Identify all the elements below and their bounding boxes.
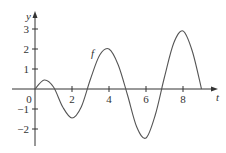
y-tick-label: 3 [24,23,30,35]
x-tick-label: 4 [106,93,112,105]
y-tick-label: −1 [17,103,29,115]
x-tick-label: 8 [180,93,186,105]
chart: 02468−2−1123ytf [0,0,226,153]
x-tick-label: 2 [69,93,75,105]
curve-label: f [91,47,96,59]
curve-f [35,31,202,139]
y-axis-label: y [25,10,31,22]
x-tick-label: 6 [143,93,149,105]
labels: 02468−2−1123ytf [17,10,220,135]
y-tick-label: 2 [24,43,30,55]
chart-svg: 02468−2−1123ytf [0,0,226,153]
y-tick-label: −2 [17,123,29,135]
y-tick-label: 1 [24,63,30,75]
axes [12,11,218,146]
x-axis-label: t [216,91,220,103]
y-axis-arrow-icon [33,11,38,18]
